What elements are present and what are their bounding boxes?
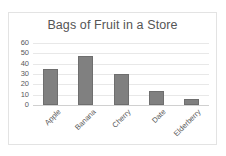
y-axis-tick-label: 10 bbox=[21, 91, 29, 99]
x-axis-tick-label: Apple bbox=[43, 108, 62, 127]
x-axis-tick-label: Cherry bbox=[111, 108, 132, 129]
x-axis: AppleBananaCherryDateElderberry bbox=[33, 106, 209, 152]
y-axis: 6050403020100 bbox=[9, 43, 31, 105]
bar bbox=[114, 74, 129, 105]
y-axis-tick-label: 50 bbox=[21, 50, 29, 58]
x-axis-tick-label: Date bbox=[151, 108, 168, 125]
y-axis-tick-label: 30 bbox=[21, 70, 29, 78]
y-axis-tick-label: 20 bbox=[21, 81, 29, 89]
bar bbox=[149, 91, 164, 105]
bar bbox=[78, 56, 93, 105]
y-axis-tick-label: 0 bbox=[25, 101, 29, 109]
chart-title: Bags of Fruit in a Store bbox=[9, 18, 216, 32]
y-axis-tick-label: 40 bbox=[21, 60, 29, 68]
chart-frame: Bags of Fruit in a Store 6050403020100 A… bbox=[8, 12, 217, 145]
bar-series bbox=[33, 43, 209, 105]
bar bbox=[43, 69, 58, 105]
x-axis-tick-label: Elderberry bbox=[173, 108, 203, 138]
bar bbox=[184, 99, 199, 105]
y-axis-tick-label: 60 bbox=[21, 39, 29, 47]
x-axis-tick-label: Banana bbox=[74, 108, 98, 132]
